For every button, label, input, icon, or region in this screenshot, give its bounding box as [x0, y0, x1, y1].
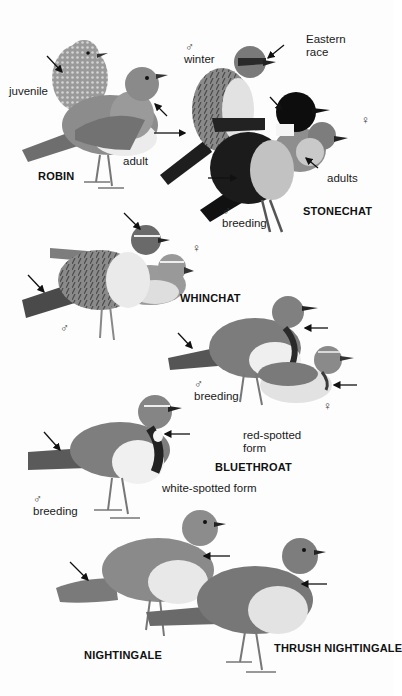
- bluethroat-form-label: form: [243, 442, 266, 455]
- species-name-nightingale: NIGHTINGALE: [84, 649, 162, 661]
- whinchat-male-illustration: [22, 225, 170, 340]
- bluethroat-white-breeding-label: breeding: [33, 505, 78, 518]
- species-name-bluethroat: BLUETHROAT: [215, 461, 292, 473]
- male-symbol-icon: ♂: [60, 322, 69, 334]
- species-name-thrush-nightingale: THRUSH NIGHTINGALE: [274, 642, 402, 654]
- stonechat-breeding-label: breeding: [222, 217, 267, 230]
- species-name-stonechat: STONECHAT: [303, 205, 372, 217]
- robin-juvenile-label: juvenile: [9, 85, 48, 98]
- bluethroat-white-spotted-label: white-spotted form: [162, 482, 257, 495]
- stonechat-adults-label: adults: [327, 172, 358, 185]
- robin-adult-label: adult: [123, 155, 148, 168]
- female-symbol-icon: ♀: [323, 400, 332, 412]
- male-symbol-icon: ♂: [222, 205, 231, 217]
- species-name-robin: ROBIN: [38, 170, 74, 182]
- male-symbol-icon: ♂: [194, 378, 203, 390]
- female-symbol-icon: ♀: [192, 242, 201, 254]
- bluethroat-red-spotted-label: red-spotted: [243, 429, 301, 442]
- male-symbol-icon: ♂: [185, 41, 194, 53]
- bluethroat-red-breeding-label: breeding: [194, 390, 239, 403]
- female-symbol-icon: ♀: [361, 114, 370, 126]
- male-symbol-icon: ♂: [33, 493, 42, 505]
- stonechat-race-label: race: [306, 46, 328, 59]
- stonechat-winter-label: winter: [184, 53, 215, 66]
- species-name-whinchat: WHINCHAT: [180, 292, 241, 304]
- bluethroat-white-spotted-illustration: [28, 395, 182, 518]
- stonechat-eastern-label: Eastern: [306, 33, 346, 46]
